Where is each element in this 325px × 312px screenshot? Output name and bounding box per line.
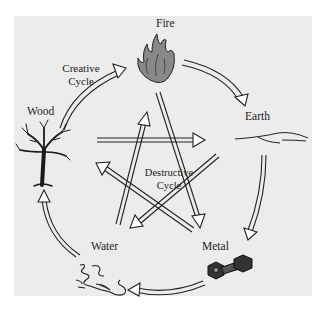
label-fire: Fire — [156, 17, 175, 30]
destructive-cycle-line1: Destructive — [134, 166, 204, 179]
arrow-water-to-wood — [38, 190, 80, 257]
flame-icon — [138, 34, 175, 83]
label-water: Water — [91, 240, 118, 253]
destructive-cycle-line2: Cycle — [134, 179, 204, 192]
arrow-fire-to-metal — [156, 92, 205, 228]
label-wood: Wood — [27, 105, 54, 118]
creative-cycle-line1: Creative — [56, 62, 106, 75]
five-elements-diagram — [0, 0, 325, 312]
ground-icon — [235, 133, 308, 143]
arrow-wood-to-earth — [97, 133, 205, 147]
arrow-fire-to-earth — [182, 60, 248, 106]
puddle-icon — [76, 264, 126, 295]
creative-cycle-label: Creative Cycle — [56, 62, 106, 88]
arrow-earth-to-metal — [244, 155, 266, 240]
destructive-cycle-arrows — [96, 92, 219, 232]
label-metal: Metal — [202, 240, 229, 253]
arrow-metal-to-water — [128, 281, 205, 296]
dumbbell-icon — [208, 255, 252, 279]
creative-cycle-line2: Cycle — [56, 75, 106, 88]
label-earth: Earth — [245, 110, 270, 123]
tree-icon — [16, 120, 70, 186]
destructive-cycle-label: Destructive Cycle — [134, 166, 204, 192]
